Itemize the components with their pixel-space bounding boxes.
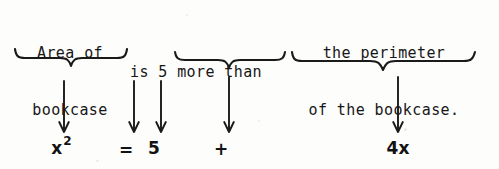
scan-speckle [258, 120, 260, 122]
brace-under-more-than [173, 50, 289, 72]
phrase-perimeter-line-2: of the bookcase. [292, 101, 476, 120]
scan-speckle [96, 160, 99, 162]
arrow-to-four-x [390, 76, 406, 138]
arrow-to-plus [221, 76, 237, 138]
brace-under-area [13, 47, 131, 69]
arrow-to-x-squared [56, 80, 72, 138]
scan-speckle [186, 14, 188, 16]
symbol-plus: + [206, 139, 236, 159]
symbol-four-x: 4x [375, 138, 421, 158]
arrow-to-five [153, 80, 169, 138]
symbol-five: 5 [138, 138, 170, 158]
symbol-x-exponent: 2 [63, 134, 71, 148]
phrase-is-five-more-than: is 5 more than [130, 25, 272, 120]
arrow-to-equals [126, 80, 142, 138]
symbol-x-base: x [51, 138, 62, 158]
brace-under-perimeter [290, 50, 480, 74]
symbol-x-squared: x2 [38, 138, 84, 158]
phrase-perimeter-of-bookcase: the perimeter of the bookcase. [292, 6, 476, 158]
worksheet-figure: Area of bookcase is 5 more than the peri… [0, 0, 499, 169]
